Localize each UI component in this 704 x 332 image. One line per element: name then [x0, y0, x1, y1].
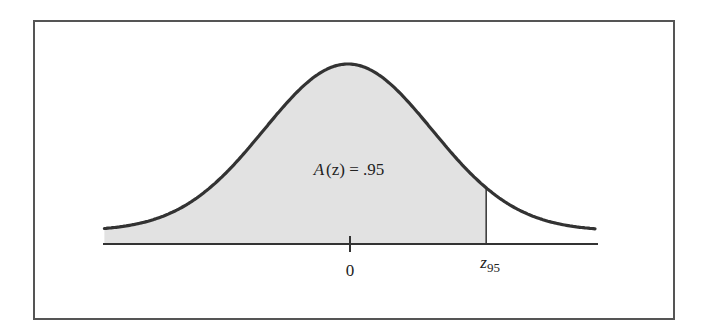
- area-label-value: = .95: [345, 160, 384, 179]
- area-label-a: A: [313, 160, 325, 179]
- area-annotation: A(z) = .95: [313, 160, 385, 179]
- normal-curve-plot: A(z) = .95 0 z95: [0, 0, 704, 332]
- tick-label-zero: 0: [346, 261, 355, 280]
- z95-label: z95: [479, 253, 500, 275]
- area-label-z: (z): [326, 160, 345, 179]
- z95-label-sub: 95: [487, 260, 500, 275]
